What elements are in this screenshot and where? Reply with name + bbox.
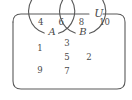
element-outside-1: 4	[38, 17, 43, 27]
element-a-only-1: 1	[34, 43, 46, 53]
element-b-only-1: 2	[83, 52, 95, 62]
set-a-label: A	[45, 26, 59, 37]
element-intersection-2: 5	[61, 52, 73, 62]
element-outside-4: 10	[99, 17, 110, 27]
venn-diagram-canvas	[0, 0, 132, 100]
venn-diagram-figure: U 4 6 8 10 A B 1 9 3 5 7 2	[0, 0, 132, 100]
element-a-only-2: 9	[34, 65, 46, 75]
element-intersection-1: 3	[61, 38, 73, 48]
element-intersection-3: 7	[61, 66, 73, 76]
set-b-label: B	[76, 26, 90, 37]
element-outside-2: 6	[58, 17, 63, 27]
